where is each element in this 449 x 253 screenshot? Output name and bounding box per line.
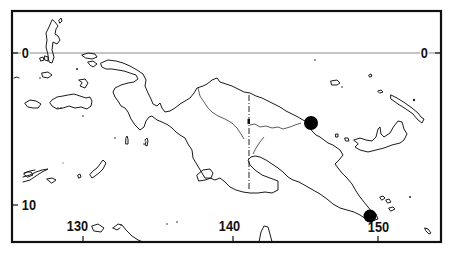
lat-label-10-left: 10 (21, 197, 37, 212)
lon-label-150: 150 (367, 219, 390, 234)
lon-label-130: 130 (66, 218, 89, 233)
lat-label-0-left: 0 (21, 45, 30, 60)
bismarck-archipelago (314, 59, 424, 152)
axis-ticks (12, 53, 441, 242)
western-islands (14, 18, 97, 117)
site-marker-north-coast (304, 116, 318, 130)
map-frame (12, 11, 441, 242)
new-guinea-coastline (101, 60, 378, 242)
lat-label-0-right: 0 (420, 45, 429, 60)
map-canvas (0, 0, 449, 253)
southwest-islands (23, 136, 178, 242)
lon-label-140: 140 (218, 218, 241, 233)
